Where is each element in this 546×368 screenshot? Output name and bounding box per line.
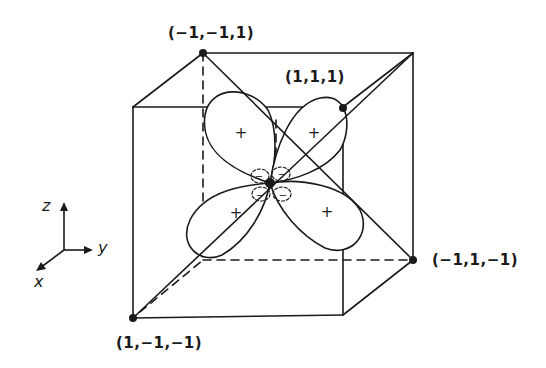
vertex-label: (1,1,1): [285, 68, 345, 86]
sign-plus: +: [308, 124, 321, 142]
vertex-label: (−1,−1,1): [168, 24, 254, 42]
x-axis-label: x: [34, 272, 43, 291]
orbital-lobes: [187, 92, 364, 258]
sign-minus: −: [279, 190, 287, 201]
z-arrow-icon: [60, 202, 68, 211]
cube-edge: [343, 53, 413, 107]
z-axis-label: z: [42, 196, 50, 215]
sign-plus: +: [230, 204, 243, 222]
vertex-label: (1,−1,−1): [116, 334, 202, 352]
sign-minus: −: [255, 171, 263, 182]
vertex-dot: [339, 104, 347, 112]
sign-plus: +: [235, 124, 248, 142]
vertex-dot: [199, 49, 207, 57]
cube-edge: [133, 53, 203, 107]
x-axis: [40, 250, 64, 268]
sign-plus: +: [321, 203, 334, 221]
sign-minus: −: [256, 190, 264, 201]
x-arrow-icon: [36, 262, 46, 271]
cube-edge: [133, 315, 343, 318]
y-arrow-icon: [84, 246, 93, 254]
vertex-label: (−1,1,−1): [432, 251, 518, 269]
center-nucleus: [265, 178, 275, 188]
vertex-dot: [409, 256, 417, 264]
hidden-edge: [140, 260, 203, 312]
orbital-cube-diagram: + + + + − − − −: [0, 0, 546, 368]
y-axis-label: y: [98, 238, 107, 257]
vertex-dot: [129, 314, 137, 322]
cube-edge: [343, 260, 413, 315]
sign-minus: −: [278, 169, 286, 180]
